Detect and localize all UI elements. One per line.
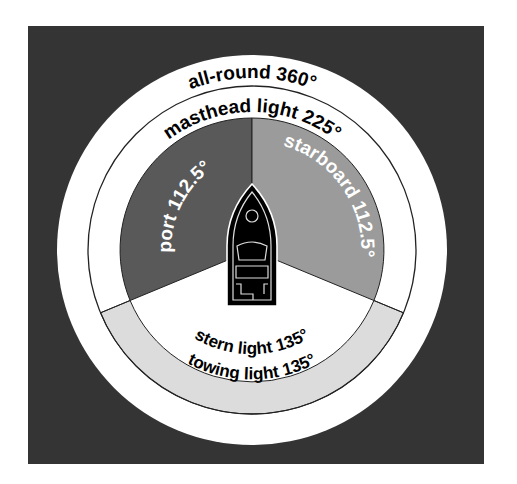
diagram-frame: all-round 360° masthead light 225° port …	[28, 26, 484, 464]
light-arcs-diagram: all-round 360° masthead light 225° port …	[28, 26, 484, 464]
